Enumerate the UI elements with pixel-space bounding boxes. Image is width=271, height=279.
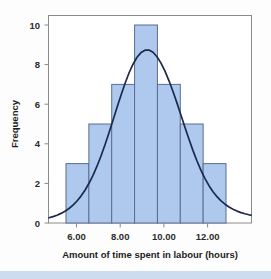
bar-5 <box>180 124 203 223</box>
x-tick-label-12: 12.00 <box>196 231 220 242</box>
x-axis-title: Amount of time spent in labour (hours) <box>62 249 238 260</box>
x-tick-label-10: 10.00 <box>152 231 176 242</box>
y-axis-ticks <box>45 25 49 223</box>
bar-2 <box>112 84 135 223</box>
y-tick-label-8: 8 <box>35 59 40 70</box>
y-tick-label-0: 0 <box>35 218 40 229</box>
y-tick-label-2: 2 <box>35 178 40 189</box>
x-tick-label-8: 8.00 <box>111 231 130 242</box>
y-tick-label-6: 6 <box>35 99 40 110</box>
histogram-figure: 0 2 4 6 8 10 Frequency 6.00 8.00 <box>0 0 271 279</box>
bar-1 <box>89 124 112 223</box>
bar-3 <box>135 25 158 223</box>
y-tick-label-10: 10 <box>29 20 40 31</box>
chart-canvas: 0 2 4 6 8 10 Frequency 6.00 8.00 <box>0 0 271 279</box>
bottom-strip <box>0 271 271 279</box>
x-tick-label-6: 6.00 <box>67 231 86 242</box>
y-tick-label-4: 4 <box>35 138 41 149</box>
bar-0 <box>66 164 89 223</box>
y-axis-title: Frequency <box>9 99 20 148</box>
x-axis-ticks <box>77 223 208 228</box>
